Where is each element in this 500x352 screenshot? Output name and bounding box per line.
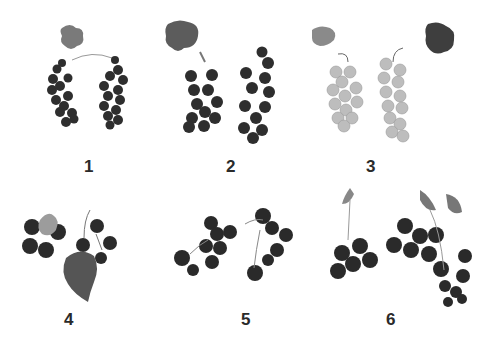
currant-cluster-2-image <box>160 0 300 180</box>
currant-cluster-1-image <box>0 0 160 180</box>
currant-cluster-6-image <box>310 180 500 352</box>
currant-cluster-5-image <box>150 180 310 352</box>
specimen-1-label: 1 <box>84 157 93 177</box>
currant-cluster-4-image <box>0 180 150 352</box>
specimen-5-label: 5 <box>241 310 250 330</box>
specimen-1: 1 <box>0 0 160 180</box>
specimen-2-label: 2 <box>226 157 235 177</box>
specimen-6-label: 6 <box>386 310 395 330</box>
specimen-4: 4 <box>0 180 150 352</box>
currant-cluster-3-image <box>300 0 500 180</box>
specimen-6: 6 <box>310 180 500 352</box>
specimen-2: 2 <box>160 0 300 180</box>
specimen-3-label: 3 <box>366 157 375 177</box>
specimen-3: 3 <box>300 0 500 180</box>
specimen-5: 5 <box>150 180 310 352</box>
specimen-4-label: 4 <box>64 310 73 330</box>
